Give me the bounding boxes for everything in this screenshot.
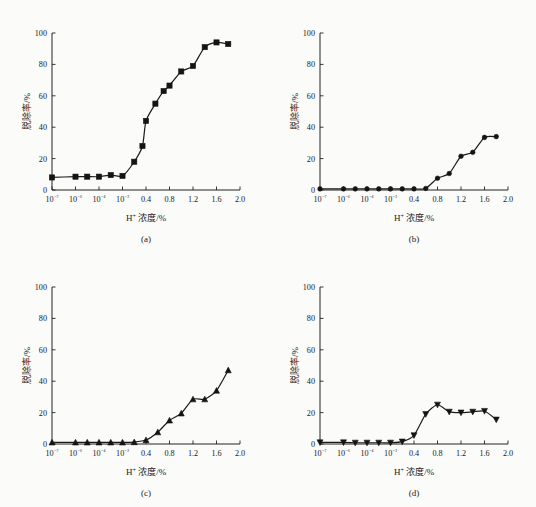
data-point-marker — [167, 83, 172, 88]
svg-text:60: 60 — [39, 346, 47, 355]
series-markers — [318, 134, 499, 191]
series-markers — [49, 40, 230, 180]
data-point-marker — [73, 174, 78, 179]
svg-text:20: 20 — [307, 409, 315, 418]
svg-text:60: 60 — [39, 92, 47, 101]
svg-text:2.0: 2.0 — [503, 195, 513, 204]
svg-text:0: 0 — [311, 186, 315, 195]
data-point-marker — [459, 154, 464, 159]
svg-text:2.0: 2.0 — [235, 449, 245, 458]
axes — [52, 287, 240, 444]
svg-text:20: 20 — [39, 155, 47, 164]
data-point-marker — [470, 150, 475, 155]
svg-text:1.6: 1.6 — [211, 449, 221, 458]
y-axis-title: 脱除率/% — [21, 346, 32, 384]
svg-text:100: 100 — [35, 29, 47, 38]
svg-text:1.6: 1.6 — [479, 449, 489, 458]
svg-text:0: 0 — [43, 440, 47, 449]
svg-text:10⁻⁶: 10⁻⁶ — [69, 448, 82, 458]
panel-caption: (c) — [141, 488, 151, 498]
svg-text:80: 80 — [307, 60, 315, 69]
svg-text:20: 20 — [307, 155, 315, 164]
data-point-marker — [493, 417, 499, 423]
svg-text:0.8: 0.8 — [432, 449, 442, 458]
svg-text:80: 80 — [39, 60, 47, 69]
x-axis-ticks: 10⁻⁷10⁻⁶10⁻⁴10⁻²0.40.81.21.62.0 — [45, 187, 245, 205]
data-point-marker — [140, 143, 145, 148]
svg-text:1.2: 1.2 — [456, 449, 466, 458]
data-point-marker — [96, 174, 101, 179]
data-point-marker — [202, 45, 207, 50]
chart-panel-a: 02040608010010⁻⁷10⁻⁶10⁻⁴10⁻²0.40.81.21.6… — [0, 0, 268, 253]
data-point-marker — [179, 69, 184, 74]
svg-text:10⁻⁶: 10⁻⁶ — [69, 194, 82, 204]
svg-text:10⁻⁶: 10⁻⁶ — [337, 448, 350, 458]
data-point-marker — [318, 187, 323, 192]
svg-text:80: 80 — [307, 314, 315, 323]
axes — [52, 33, 240, 190]
svg-text:0.4: 0.4 — [409, 195, 419, 204]
data-point-marker — [376, 187, 381, 192]
svg-text:10⁻²: 10⁻² — [116, 194, 129, 204]
series-line — [52, 42, 228, 177]
svg-text:1.6: 1.6 — [479, 195, 489, 204]
data-point-marker — [400, 187, 405, 192]
svg-text:10⁻²: 10⁻² — [384, 448, 397, 458]
svg-text:100: 100 — [35, 283, 47, 292]
x-axis-title: H+ 浓度/% — [126, 212, 167, 223]
data-point-marker — [388, 187, 393, 192]
svg-text:1.6: 1.6 — [211, 195, 221, 204]
y-axis-title: 脱除率/% — [289, 346, 300, 384]
data-point-marker — [49, 175, 54, 180]
data-point-marker — [225, 367, 231, 373]
y-axis-title: 脱除率/% — [21, 92, 32, 130]
svg-text:1.2: 1.2 — [188, 195, 198, 204]
data-point-marker — [494, 134, 499, 139]
data-point-marker — [423, 186, 428, 191]
data-point-marker — [161, 88, 166, 93]
data-point-marker — [226, 41, 231, 46]
svg-text:0.4: 0.4 — [141, 449, 151, 458]
chart-panel-b: 02040608010010⁻⁷10⁻⁶10⁻⁴10⁻²0.40.81.21.6… — [268, 0, 536, 253]
data-point-marker — [365, 187, 370, 192]
svg-text:1.2: 1.2 — [188, 449, 198, 458]
svg-text:0.4: 0.4 — [409, 449, 419, 458]
svg-text:10⁻⁷: 10⁻⁷ — [313, 448, 326, 458]
data-point-marker — [143, 437, 149, 443]
svg-text:0: 0 — [311, 440, 315, 449]
x-axis-title: H+ 浓度/% — [394, 212, 435, 223]
data-point-marker — [167, 417, 173, 423]
chart-panel-d: 02040608010010⁻⁷10⁻⁶10⁻⁴10⁻²0.40.81.21.6… — [268, 254, 536, 507]
data-point-marker — [108, 172, 113, 177]
svg-text:10⁻⁴: 10⁻⁴ — [92, 194, 105, 204]
svg-text:100: 100 — [303, 283, 315, 292]
svg-text:40: 40 — [39, 377, 47, 386]
svg-text:10⁻⁷: 10⁻⁷ — [45, 448, 58, 458]
svg-text:10⁻⁷: 10⁻⁷ — [45, 194, 58, 204]
svg-text:10⁻⁴: 10⁻⁴ — [92, 448, 105, 458]
panel-caption: (b) — [409, 234, 420, 244]
svg-text:100: 100 — [303, 29, 315, 38]
data-point-marker — [85, 174, 90, 179]
svg-text:0.8: 0.8 — [164, 449, 174, 458]
data-point-marker — [341, 187, 346, 192]
svg-text:0.4: 0.4 — [141, 195, 151, 204]
data-point-marker — [143, 118, 148, 123]
axes — [320, 287, 508, 444]
svg-text:60: 60 — [307, 92, 315, 101]
series-markers — [49, 367, 231, 445]
data-point-marker — [435, 176, 440, 181]
svg-text:10⁻²: 10⁻² — [116, 448, 129, 458]
series-line — [320, 136, 496, 189]
svg-text:10⁻⁴: 10⁻⁴ — [360, 194, 373, 204]
data-point-marker — [132, 159, 137, 164]
svg-text:60: 60 — [307, 346, 315, 355]
svg-text:40: 40 — [307, 377, 315, 386]
series-line — [320, 405, 496, 443]
series-line — [52, 370, 228, 442]
axes — [320, 33, 508, 190]
svg-text:2.0: 2.0 — [235, 195, 245, 204]
x-axis-title: H+ 浓度/% — [126, 466, 167, 477]
data-point-marker — [423, 412, 429, 418]
svg-text:80: 80 — [39, 314, 47, 323]
